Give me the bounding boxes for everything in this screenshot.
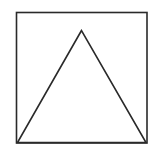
triangle-shape xyxy=(18,31,147,143)
diagram-canvas xyxy=(0,0,153,159)
